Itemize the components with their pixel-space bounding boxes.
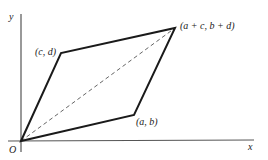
point-ab-label: (a, b) bbox=[136, 117, 158, 127]
x-axis-label: x bbox=[248, 142, 252, 152]
point-cd-label: (c, d) bbox=[35, 47, 56, 57]
x-axis bbox=[8, 140, 254, 141]
origin-label: O bbox=[9, 145, 16, 155]
point-sum-label: (a + c, b + d) bbox=[180, 21, 235, 31]
y-axis-label: y bbox=[9, 12, 13, 22]
